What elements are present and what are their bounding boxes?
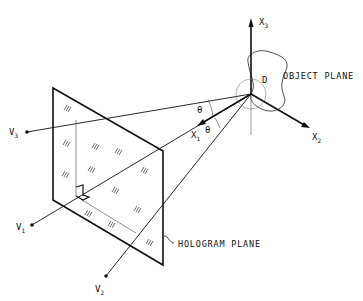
ray-v1 [32, 94, 251, 225]
axis-x3-label: X3 [259, 17, 268, 29]
viewpoint-v3-dot [25, 130, 29, 134]
viewpoint-v1-dot [30, 223, 34, 227]
theta-upper-label: θ [197, 105, 202, 115]
fringe-hatches [62, 105, 153, 246]
theta-arc-lower [215, 118, 220, 128]
viewpoint-v2-dot [104, 274, 108, 278]
viewpoint-v1-label: V1 [16, 222, 25, 234]
hologram-plane [53, 88, 163, 265]
axis-x1-label: X1 [191, 130, 200, 142]
axis-x3-arrowhead [249, 18, 254, 27]
hologram-plane-label: HOLOGRAM PLANE [178, 239, 261, 249]
viewpoint-v2-label: V2 [95, 284, 104, 296]
object-domain-label: D [262, 75, 267, 85]
axis-x2-arrowhead [301, 122, 310, 128]
projection-horizontal [82, 200, 136, 233]
theta-lower-label: θ [205, 125, 210, 135]
axis-x2-label: X2 [312, 132, 321, 144]
hologram-geometry-diagram: X3 X2 X1 D OBJECT PLANE HOLOGRAM PLANE θ… [0, 0, 363, 301]
theta-arc-upper [208, 100, 213, 116]
axis-x2 [251, 94, 306, 126]
viewpoint-v3-label: V3 [9, 127, 18, 139]
diagram-canvas: X3 X2 X1 D OBJECT PLANE HOLOGRAM PLANE θ… [0, 0, 363, 301]
object-plane-label: OBJECT PLANE [283, 71, 354, 81]
hologram-leader [164, 236, 174, 243]
